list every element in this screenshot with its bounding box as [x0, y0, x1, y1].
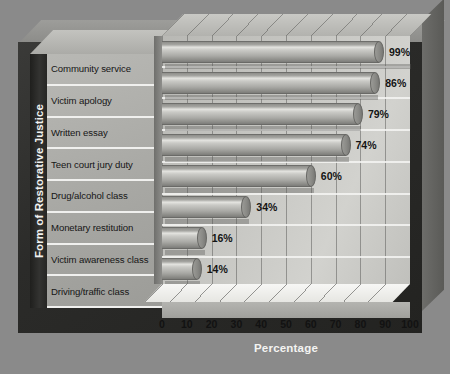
category-label: Driving/traffic class — [47, 286, 129, 297]
bar — [162, 134, 346, 156]
bar-value-label: 79% — [368, 108, 389, 120]
bar-value-label: 34% — [256, 201, 277, 213]
x-axis-tick-label: 50 — [280, 318, 292, 330]
category-label-row: Monetary restitution — [47, 213, 162, 245]
bar-end-cap — [192, 258, 202, 280]
plot-area: 99%86%79%74%60%34%16%14% — [162, 36, 410, 284]
bar — [162, 258, 197, 280]
bar-value-label: 74% — [356, 139, 377, 151]
bar-value-label: 99% — [389, 46, 410, 58]
category-label-row: Victim apology — [47, 86, 162, 118]
bar-end-cap — [341, 134, 351, 156]
category-label-row: Driving/traffic class — [47, 276, 162, 308]
category-label-list: Community serviceVictim apologyWritten e… — [47, 54, 162, 308]
bar-series: 99%86%79%74%60%34%16%14% — [162, 36, 410, 284]
category-label-row: Victim awareness class — [47, 245, 162, 277]
bar — [162, 227, 202, 249]
category-label: Drug/alcohol class — [47, 190, 128, 201]
bar-value-label: 60% — [321, 170, 342, 182]
bar-end-cap — [306, 165, 316, 187]
bar-end-cap — [370, 72, 380, 94]
bar — [162, 103, 358, 125]
category-label-row: Written essay — [47, 118, 162, 150]
bar — [162, 41, 379, 63]
bar-row: 60% — [162, 160, 410, 192]
bar-value-label: 16% — [212, 232, 233, 244]
bar-row: 16% — [162, 222, 410, 254]
floor-top-surface — [145, 284, 410, 302]
x-axis-tick-label: 0 — [159, 318, 165, 330]
category-label-row: Community service — [47, 54, 162, 86]
y-axis-title: Form of Restorative Justice — [33, 104, 45, 258]
x-axis-tick-label: 30 — [231, 318, 243, 330]
bar-end-cap — [241, 196, 251, 218]
x-axis-tick-labels: 0102030405060708090100 — [162, 318, 410, 333]
x-axis-tick-label: 10 — [181, 318, 193, 330]
x-axis-tick-label: 20 — [206, 318, 218, 330]
chart-panel: Form of Restorative Justice Community se… — [30, 30, 410, 308]
y-axis-title-band: Form of Restorative Justice — [30, 54, 47, 308]
x-axis-tick-label: 70 — [330, 318, 342, 330]
x-axis-tick-label: 40 — [255, 318, 267, 330]
x-axis-tick-label: 80 — [355, 318, 367, 330]
category-label: Victim apology — [47, 95, 112, 106]
category-label: Written essay — [47, 127, 108, 138]
bar-row: 14% — [162, 253, 410, 285]
plot-left-wall — [154, 36, 162, 284]
bar-value-label: 14% — [207, 263, 228, 275]
floor-front-surface — [162, 302, 410, 318]
plot-top-surface — [162, 14, 431, 36]
bar-row: 99% — [162, 36, 410, 68]
chart-screenshot: Form of Restorative Justice Community se… — [0, 0, 450, 374]
bar-row: 79% — [162, 98, 410, 130]
floor-gridline-extensions — [145, 284, 410, 302]
bar-end-cap — [197, 227, 207, 249]
category-label: Monetary restitution — [47, 222, 133, 233]
plot-top-gridlines — [162, 14, 431, 36]
x-axis-title: Percentage — [162, 342, 410, 354]
category-label: Community service — [47, 63, 131, 74]
bar-end-cap — [353, 103, 363, 125]
x-axis-tick-label: 60 — [305, 318, 317, 330]
category-label: Victim awareness class — [47, 254, 148, 265]
category-label: Teen court jury duty — [47, 159, 133, 170]
bar — [162, 72, 375, 94]
bar — [162, 165, 311, 187]
bar-value-label: 86% — [385, 77, 406, 89]
bar-row: 34% — [162, 191, 410, 223]
bar — [162, 196, 246, 218]
x-axis-tick-label: 100 — [401, 318, 419, 330]
frame-right-surface — [422, 0, 444, 311]
category-label-row: Drug/alcohol class — [47, 181, 162, 213]
bar-row: 74% — [162, 129, 410, 161]
category-label-row: Teen court jury duty — [47, 149, 162, 181]
x-axis-tick-label: 90 — [379, 318, 391, 330]
bar-row: 86% — [162, 67, 410, 99]
bar-end-cap — [374, 41, 384, 63]
